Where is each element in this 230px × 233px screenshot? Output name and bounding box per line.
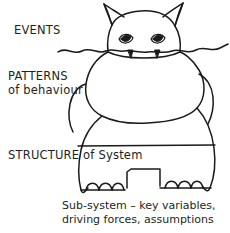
label-events: EVENTS bbox=[14, 24, 61, 38]
structure-line bbox=[78, 145, 215, 146]
caption-subsystem: Sub-system – key variables, driving forc… bbox=[62, 199, 216, 227]
label-patterns-line1: PATTERNS bbox=[8, 69, 68, 83]
caption-line1: Sub-system – key variables, bbox=[62, 199, 216, 212]
label-patterns: PATTERNS of behaviour bbox=[8, 70, 83, 97]
label-structure: STRUCTURE of System bbox=[8, 149, 143, 163]
iceberg-model-diagram: EVENTS PATTERNS of behaviour STRUCTURE o… bbox=[0, 0, 230, 233]
caption-line2: driving forces, assumptions bbox=[62, 213, 216, 227]
label-patterns-line2: of behaviour bbox=[8, 84, 83, 98]
